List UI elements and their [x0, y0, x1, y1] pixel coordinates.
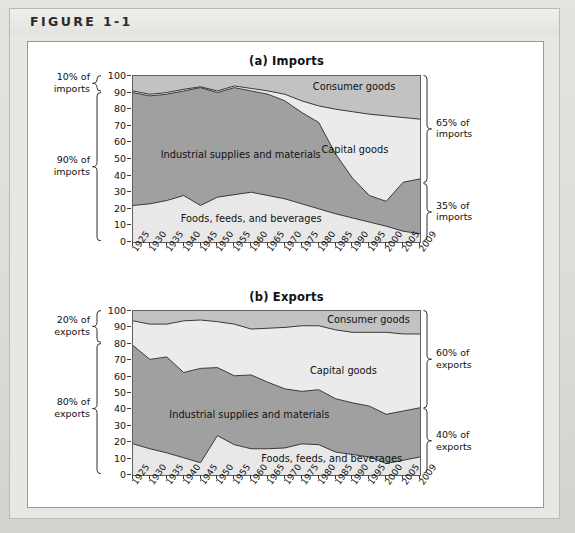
y-tick-label: 70	[102, 354, 126, 365]
y-tick-label: 50	[102, 387, 126, 398]
y-tick-mark	[127, 343, 131, 344]
y-tick-mark	[127, 408, 131, 409]
y-tick-label: 90	[102, 321, 126, 332]
y-tick-label: 20	[102, 436, 126, 447]
stacked-area-svg	[133, 311, 420, 475]
y-tick-mark	[127, 191, 131, 192]
brace-label-line1: 65% of	[436, 117, 472, 129]
y-tick-mark	[127, 241, 131, 242]
panel-exports: (b) Exports 0102030405060708090100192519…	[28, 282, 545, 509]
left-brace	[92, 310, 101, 343]
area-label: Industrial supplies and materials	[161, 149, 321, 160]
brace-label: 90% ofimports	[34, 154, 90, 177]
brace-label-line2: imports	[436, 211, 472, 223]
brace-glyph	[93, 76, 102, 92]
left-brace	[92, 92, 101, 241]
right-brace	[423, 408, 432, 474]
area-label: Industrial supplies and materials	[169, 409, 329, 420]
brace-glyph	[93, 92, 102, 240]
y-tick-mark	[127, 125, 131, 126]
brace-label-line1: 40% of	[436, 429, 472, 441]
panel-a-title: (a) Imports	[28, 54, 545, 68]
y-tick-label: 30	[102, 419, 126, 430]
y-tick-mark	[127, 92, 131, 93]
brace-label-line1: 80% of	[34, 396, 90, 408]
brace-label: 35% ofimports	[436, 200, 472, 223]
y-tick-label: 40	[102, 169, 126, 180]
brace-label-line2: exports	[436, 441, 472, 453]
brace-label: 20% ofexports	[34, 314, 90, 337]
y-tick-label: 70	[102, 119, 126, 130]
area-label: Foods, feeds, and beverages	[261, 453, 402, 464]
y-tick-mark	[127, 141, 131, 142]
brace-glyph	[93, 343, 102, 473]
y-tick-mark	[127, 441, 131, 442]
brace-glyph	[93, 311, 102, 343]
left-brace	[92, 343, 101, 474]
right-brace	[423, 183, 432, 241]
panel-imports: (a) Imports 0102030405060708090100192519…	[28, 42, 545, 282]
brace-label-line1: 60% of	[436, 347, 472, 359]
y-tick-mark	[127, 158, 131, 159]
y-tick-label: 10	[102, 219, 126, 230]
y-tick-mark	[127, 75, 131, 76]
brace-label-line2: exports	[34, 326, 90, 338]
brace-label: 60% ofexports	[436, 347, 472, 370]
y-tick-mark	[127, 208, 131, 209]
plot-rect	[132, 310, 421, 476]
y-tick-mark	[127, 359, 131, 360]
area-label: Consumer goods	[327, 314, 410, 325]
right-brace	[423, 75, 432, 183]
y-tick-label: 30	[102, 186, 126, 197]
brace-label-line2: exports	[34, 408, 90, 420]
y-tick-label: 60	[102, 136, 126, 147]
area-label: Capital goods	[310, 365, 377, 376]
y-tick-mark	[127, 458, 131, 459]
y-tick-mark	[127, 310, 131, 311]
y-tick-label: 80	[102, 103, 126, 114]
y-tick-mark	[127, 224, 131, 225]
brace-label-line2: imports	[34, 166, 90, 178]
y-tick-mark	[127, 376, 131, 377]
y-tick-label: 100	[102, 70, 126, 81]
y-tick-label: 0	[102, 469, 126, 480]
y-tick-label: 10	[102, 452, 126, 463]
y-tick-label: 50	[102, 153, 126, 164]
y-tick-label: 100	[102, 305, 126, 316]
brace-label-line1: 90% of	[34, 154, 90, 166]
brace-label-line1: 10% of	[34, 71, 90, 83]
y-tick-label: 40	[102, 403, 126, 414]
brace-glyph	[424, 311, 432, 408]
y-tick-mark	[127, 392, 131, 393]
y-tick-label: 90	[102, 86, 126, 97]
brace-label: 40% ofexports	[436, 429, 472, 452]
y-tick-mark	[127, 474, 131, 475]
y-tick-mark	[127, 326, 131, 327]
y-tick-mark	[127, 425, 131, 426]
brace-label-line2: imports	[436, 128, 472, 140]
brace-label-line2: exports	[436, 359, 472, 371]
brace-label-line1: 35% of	[436, 200, 472, 212]
figure-frame: FIGURE 1-1 (a) Imports 01020304050607080…	[9, 8, 560, 519]
brace-label-line1: 20% of	[34, 314, 90, 326]
y-tick-label: 0	[102, 236, 126, 247]
y-tick-mark	[127, 175, 131, 176]
brace-glyph	[424, 183, 432, 240]
brace-label: 80% ofexports	[34, 396, 90, 419]
y-tick-mark	[127, 108, 131, 109]
y-tick-label: 60	[102, 370, 126, 381]
area-label: Foods, feeds, and beverages	[181, 213, 322, 224]
brace-glyph	[424, 76, 432, 183]
page-background: FIGURE 1-1 (a) Imports 01020304050607080…	[0, 0, 575, 533]
panel-b-title: (b) Exports	[28, 290, 545, 304]
y-tick-label: 20	[102, 202, 126, 213]
left-brace	[92, 75, 101, 92]
brace-label: 10% ofimports	[34, 71, 90, 94]
brace-label-line2: imports	[34, 83, 90, 95]
y-tick-label: 80	[102, 337, 126, 348]
area-label: Consumer goods	[313, 81, 396, 92]
right-brace	[423, 310, 432, 408]
figure-body: (a) Imports 0102030405060708090100192519…	[27, 41, 544, 508]
brace-glyph	[424, 409, 432, 474]
brace-label: 65% ofimports	[436, 117, 472, 140]
